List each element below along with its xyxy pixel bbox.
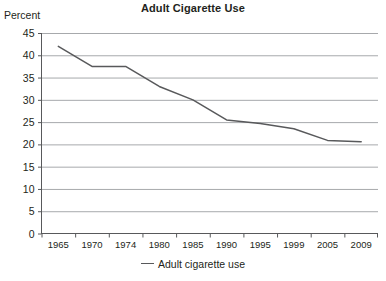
x-axis-tick-label: 2005 (317, 239, 338, 250)
y-axis-ticks: 051015202530354045 (23, 27, 42, 240)
legend-label: Adult cigarette use (158, 258, 245, 270)
x-axis-tick-label: 1999 (283, 239, 304, 250)
chart-legend: Adult cigarette use (0, 258, 386, 270)
series-line-adult-cigarette-use (58, 46, 361, 141)
gridlines (42, 34, 379, 212)
x-axis-tick-label: 2009 (351, 239, 372, 250)
y-axis-tick-label: 45 (23, 27, 35, 39)
y-axis-tick-label: 15 (23, 161, 35, 173)
plot-area: 051015202530354045 196519701974198019851… (0, 0, 386, 281)
x-axis-ticks: 1965197019741980198519901995199920052009 (42, 234, 378, 250)
y-axis-tick-label: 0 (29, 228, 35, 240)
y-axis-tick-label: 20 (23, 138, 35, 150)
chart-figure: Adult Cigarette Use Percent 051015202530… (0, 0, 386, 281)
x-axis-tick-label: 1990 (216, 239, 237, 250)
y-axis-tick-label: 5 (29, 205, 35, 217)
y-axis-tick-label: 30 (23, 94, 35, 106)
x-axis-tick-label: 1970 (81, 239, 102, 250)
x-axis-tick-label: 1995 (250, 239, 271, 250)
legend-entry: Adult cigarette use (141, 258, 245, 270)
y-axis-tick-label: 10 (23, 183, 35, 195)
legend-line-icon (141, 263, 154, 264)
x-axis-tick-label: 1974 (115, 239, 136, 250)
y-axis-tick-label: 25 (23, 116, 35, 128)
x-axis-tick-label: 1965 (48, 239, 69, 250)
x-axis-tick-label: 1985 (182, 239, 203, 250)
y-axis-tick-label: 40 (23, 49, 35, 61)
x-axis-tick-label: 1980 (149, 239, 170, 250)
y-axis-tick-label: 35 (23, 72, 35, 84)
